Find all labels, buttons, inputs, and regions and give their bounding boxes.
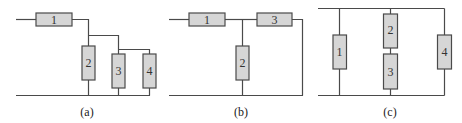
resistor-c-1: 1 (333, 35, 347, 69)
resistor-a-1: 1 (36, 13, 72, 27)
resistor-label: 2 (240, 56, 246, 70)
resistor-label: 3 (388, 65, 394, 79)
resistor-label: 2 (86, 56, 92, 70)
circuit-panel-b: 1 2 3 (b) (169, 13, 303, 120)
resistor-b-1: 1 (189, 13, 225, 27)
resistor-label: 1 (51, 13, 57, 27)
caption-b: (b) (234, 105, 248, 119)
resistor-label: 3 (116, 64, 122, 78)
circuit-panel-a: 1 2 3 4 (a) (16, 13, 156, 120)
resistor-a-4: 4 (143, 54, 156, 88)
resistor-b-2: 2 (236, 46, 249, 80)
circuit-figure: 1 2 3 4 (a) 1 (0, 0, 462, 123)
resistor-label: 3 (272, 13, 278, 27)
resistor-b-3: 3 (257, 13, 292, 27)
resistor-c-2: 2 (384, 14, 398, 48)
resistor-label: 4 (147, 64, 153, 78)
resistor-label: 4 (442, 45, 448, 59)
resistor-label: 1 (204, 13, 210, 27)
caption-a: (a) (80, 105, 93, 119)
resistor-label: 2 (388, 23, 394, 37)
caption-c: (c) (383, 105, 396, 119)
resistor-label: 1 (337, 45, 343, 59)
resistor-a-3: 3 (112, 54, 125, 88)
resistor-c-3: 3 (384, 54, 398, 89)
resistor-a-2: 2 (82, 46, 95, 80)
circuit-panel-c: 1 2 3 4 (c) (318, 9, 452, 120)
resistor-c-4: 4 (438, 35, 452, 69)
